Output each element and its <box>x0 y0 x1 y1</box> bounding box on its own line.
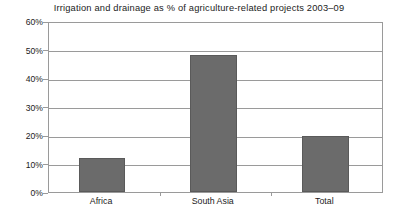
y-axis-tick-label: 10% <box>3 160 43 169</box>
y-axis-tick-label: 20% <box>3 132 43 141</box>
y-axis-tick-label: 30% <box>3 103 43 112</box>
chart-container: Irrigation and drainage as % of agricult… <box>0 0 398 218</box>
chart-title: Irrigation and drainage as % of agricult… <box>0 3 398 13</box>
x-axis-tick-label: Africa <box>90 196 113 206</box>
y-axis: 0%10%20%30%40%50%60% <box>0 22 43 193</box>
x-axis-tick-mark <box>160 193 161 196</box>
y-axis-tick-label: 40% <box>3 75 43 84</box>
y-axis-tick-label: 50% <box>3 46 43 55</box>
gridline <box>49 51 382 52</box>
x-axis: AfricaSouth AsiaTotal <box>48 196 383 214</box>
x-axis-tick-label: Total <box>315 196 334 206</box>
bar-africa <box>79 158 126 192</box>
y-axis-tick-label: 0% <box>3 189 43 198</box>
bar-south-asia <box>190 55 237 192</box>
x-axis-tick-mark <box>271 193 272 196</box>
bar-total <box>302 136 349 192</box>
plot-area <box>48 22 383 193</box>
y-axis-tick-label: 60% <box>3 18 43 27</box>
x-axis-tick-label: South Asia <box>192 196 234 206</box>
